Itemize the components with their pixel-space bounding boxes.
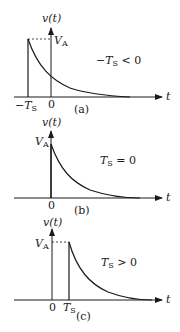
figure: v(t) t VA −TS < 0 −TS 0 (a) v(t) t VA TS…: [0, 0, 180, 332]
decay-curve: [28, 39, 130, 97]
x-axis-label: t: [166, 191, 171, 204]
decay-curve: [69, 242, 152, 300]
condition-label: TS = 0: [100, 154, 136, 168]
panel-a: v(t) t VA −TS < 0 −TS 0 (a): [14, 12, 171, 116]
y-axis-label: v(t): [43, 216, 62, 229]
x-axis-label: t: [166, 90, 171, 103]
decay-curve: [51, 144, 140, 198]
caption: (b): [74, 204, 90, 217]
y-axis-label: v(t): [42, 12, 61, 25]
y-axis-label: v(t): [42, 116, 61, 129]
x-axis-label: t: [166, 293, 171, 306]
tick-label-ts: TS: [63, 301, 76, 315]
peak-label: VA: [35, 135, 49, 149]
panel-b: v(t) t VA TS = 0 0 (b): [14, 116, 171, 217]
tick-label-zero: 0: [49, 301, 56, 314]
tick-label-neg-ts: −TS: [15, 99, 37, 113]
peak-label: VA: [54, 34, 68, 48]
caption: (c): [76, 310, 91, 323]
peak-label: VA: [35, 237, 49, 251]
tick-label-zero: 0: [48, 98, 55, 111]
condition-label: TS > 0: [101, 256, 137, 270]
tick-label-zero: 0: [48, 199, 55, 212]
condition-label: −TS < 0: [96, 54, 141, 68]
panel-c: v(t) t VA TS > 0 0 TS (c): [14, 216, 171, 323]
caption: (a): [74, 103, 89, 116]
